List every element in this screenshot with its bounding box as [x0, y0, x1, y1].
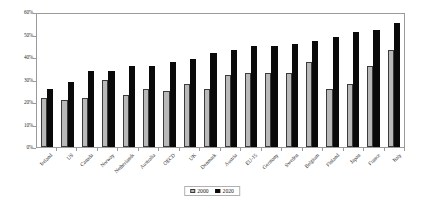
- y-axis-tick-label: 20%: [24, 100, 33, 105]
- x-axis-tick-label: Germany: [261, 152, 279, 170]
- x-axis-tick-label: Finland: [325, 152, 341, 168]
- bar-group: [200, 14, 220, 147]
- bar-2020: [312, 41, 318, 147]
- x-axis-tick-label: US: [65, 152, 74, 161]
- bar-2020: [210, 53, 216, 148]
- bar-group: [322, 14, 342, 147]
- legend-item: 2000: [190, 188, 208, 194]
- bar-group: [261, 14, 281, 147]
- bar-group: [159, 14, 179, 147]
- bar-2020: [333, 37, 339, 147]
- bar-2020: [149, 66, 155, 147]
- x-axis-tick-label: EU-15: [244, 152, 258, 166]
- bar-group: [221, 14, 241, 147]
- bar-groups: [37, 14, 404, 147]
- x-axis-tick-label: Netherlands: [113, 152, 135, 174]
- bar-group: [139, 14, 159, 147]
- y-axis-tick-label: 30%: [24, 78, 33, 83]
- bar-2020: [47, 89, 53, 148]
- x-axis-tick-label: Austria: [223, 152, 238, 167]
- bar-2020: [271, 46, 277, 147]
- bar-2020: [129, 66, 135, 147]
- y-axis-tick-label: 10%: [24, 123, 33, 128]
- x-axis-tick-label: Denmark: [199, 152, 217, 170]
- bar-group: [180, 14, 200, 147]
- bar-group: [343, 14, 363, 147]
- bar-2020: [292, 44, 298, 148]
- bar-group: [57, 14, 77, 147]
- x-axis-tick-label: Belgium: [303, 152, 320, 169]
- chart-legend: 20002020: [184, 186, 240, 196]
- y-axis: 0%10%20%30%40%50%60%: [0, 0, 36, 161]
- bar-group: [98, 14, 118, 147]
- x-axis-tick-label: Norway: [99, 152, 115, 168]
- y-axis-tick-label: 60%: [24, 10, 33, 15]
- x-axis-tick-label: Ireland: [39, 152, 54, 167]
- legend-item: 2020: [216, 188, 234, 194]
- x-axis-tick-label: UK: [187, 152, 197, 162]
- chart-figure: 0%10%20%30%40%50%60% IrelandUSCanadaNorw…: [0, 0, 424, 211]
- x-axis-tick-label: Italy: [391, 152, 402, 163]
- bar-group: [119, 14, 139, 147]
- bar-group: [282, 14, 302, 147]
- x-axis-tick-label: Sweden: [283, 152, 299, 168]
- legend-label: 2020: [223, 188, 234, 194]
- x-axis-tick-label: Australia: [138, 152, 156, 170]
- bar-2020: [88, 71, 94, 148]
- bar-2020: [373, 30, 379, 147]
- legend-label: 2000: [197, 188, 208, 194]
- bar-2020: [394, 23, 400, 147]
- bar-group: [241, 14, 261, 147]
- y-axis-tick-label: 50%: [24, 33, 33, 38]
- legend-swatch-icon: [190, 189, 195, 194]
- bar-2020: [231, 50, 237, 147]
- bar-group: [78, 14, 98, 147]
- bar-group: [37, 14, 57, 147]
- y-axis-tick-label: 40%: [24, 55, 33, 60]
- bar-2020: [68, 82, 74, 147]
- x-axis-tick-label: Canada: [79, 152, 94, 167]
- bar-group: [363, 14, 383, 147]
- x-axis-tick-label: France: [367, 152, 381, 166]
- x-axis-tick-label: OECD: [162, 152, 176, 166]
- plot-area: [36, 13, 405, 148]
- bar-2020: [108, 71, 114, 148]
- bar-2020: [170, 62, 176, 148]
- bar-2020: [353, 32, 359, 147]
- x-axis-labels: IrelandUSCanadaNorwayNetherlandsAustrali…: [36, 150, 405, 188]
- bar-group: [302, 14, 322, 147]
- bar-group: [384, 14, 404, 147]
- bar-2020: [190, 59, 196, 147]
- legend-swatch-icon: [216, 189, 221, 194]
- x-axis-tick-label: Japan: [348, 152, 361, 165]
- bar-2020: [251, 46, 257, 147]
- y-axis-tick-label: 0%: [26, 145, 33, 150]
